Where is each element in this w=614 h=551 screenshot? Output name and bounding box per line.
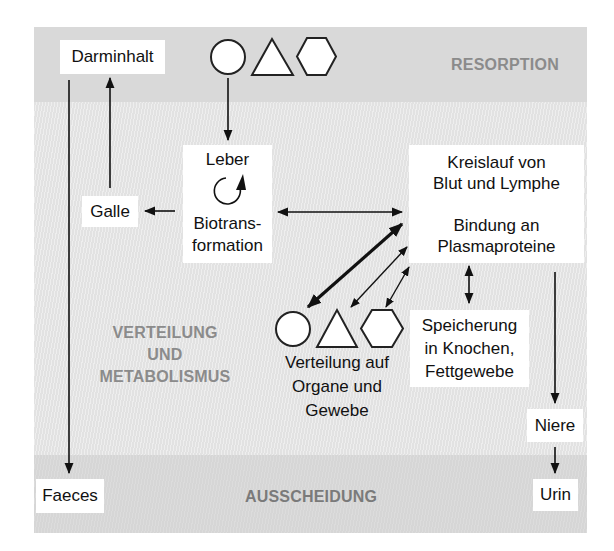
box-label: Galle — [90, 201, 130, 223]
distribution-label-line: Verteilung auf — [267, 351, 407, 375]
box-label: Faeces — [42, 485, 98, 507]
box-line: Plasmaproteine — [437, 236, 555, 257]
box-urin: Urin — [533, 479, 578, 511]
box-niere: Niere — [527, 409, 583, 442]
box-line: Fettgewebe — [425, 360, 514, 383]
box-line: Kreislauf von — [447, 152, 545, 173]
distribution-label: Verteilung auf Organe und Gewebe — [267, 351, 407, 423]
box-label: Darminhalt — [71, 46, 153, 68]
distribution-label-line: Gewebe — [267, 399, 407, 423]
box-speicherung: Speicherung in Knochen, Fettgewebe — [410, 310, 529, 387]
box-kreislauf-plasmaproteine: Kreislauf von Blut und Lymphe Bindung an… — [409, 145, 584, 263]
zone-label-excretion: AUSSCHEIDUNG — [231, 486, 391, 508]
zone-label-distribution-metabolism: VERTEILUNG UND METABOLISMUS — [85, 322, 245, 388]
zone-label-line: UND — [85, 344, 245, 366]
box-galle: Galle — [82, 196, 138, 227]
box-title: Leber — [206, 149, 249, 171]
box-line: Blut und Lymphe — [433, 173, 560, 194]
box-line: Bindung an — [453, 215, 539, 236]
box-line: Biotrans- — [193, 213, 261, 235]
box-darminhalt: Darminhalt — [60, 40, 165, 74]
box-line: formation — [192, 235, 263, 257]
box-leber-biotransformation: Leber Biotrans- formation — [183, 145, 272, 263]
zone-label-resorption: RESORPTION — [440, 54, 570, 76]
zone-label-line: METABOLISMUS — [85, 366, 245, 388]
box-label: Urin — [540, 484, 571, 506]
diagram-panel — [34, 27, 587, 533]
box-faeces: Faeces — [36, 479, 104, 513]
box-line: Speicherung — [422, 314, 517, 337]
zone-label-line: VERTEILUNG — [85, 322, 245, 344]
box-label: Niere — [535, 415, 576, 437]
distribution-label-line: Organe und — [267, 375, 407, 399]
box-line: in Knochen, — [425, 337, 515, 360]
